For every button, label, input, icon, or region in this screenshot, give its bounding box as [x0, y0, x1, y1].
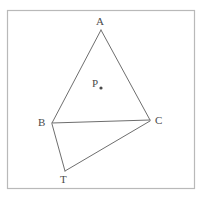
segment-BC	[52, 120, 150, 123]
vertex-label-a: A	[96, 16, 104, 27]
figure-canvas	[0, 0, 203, 199]
point-p-marker	[99, 86, 102, 89]
figure-border	[8, 11, 195, 189]
segment-BT	[52, 124, 65, 171]
vertex-label-p: P	[92, 78, 98, 89]
segment-AC	[101, 30, 150, 120]
vertex-label-t: T	[60, 174, 67, 185]
vertex-label-b: B	[38, 117, 45, 128]
vertex-label-c: C	[155, 115, 162, 126]
segment-TC	[65, 121, 150, 171]
geometry-figure: A B C T P	[0, 0, 203, 199]
